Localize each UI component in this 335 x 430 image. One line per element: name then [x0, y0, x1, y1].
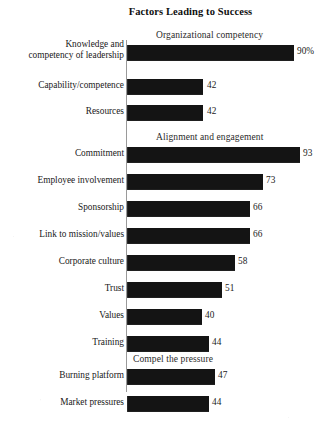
- bar-label: Values: [0, 310, 124, 321]
- bar-value: 47: [218, 370, 227, 380]
- section-header-organizational-competency: Organizational competency: [156, 30, 263, 40]
- bar-value: 58: [238, 256, 247, 266]
- bar-row: Link to mission/values 66: [0, 228, 335, 244]
- bar-value: 93: [303, 148, 312, 158]
- bar-row: Capability/competence 42: [0, 79, 335, 95]
- bar-row: Commitment 93: [0, 147, 335, 163]
- bar-fill: [127, 282, 222, 298]
- bar-row: Knowledge and competency of leadership 9…: [0, 45, 335, 61]
- bar-fill: [127, 45, 294, 61]
- bar-label: Capability/competence: [0, 80, 124, 91]
- bar-value: 73: [266, 175, 275, 185]
- bar-label: Trust: [0, 283, 124, 294]
- bar-label: Training: [0, 337, 124, 348]
- bar-track: [127, 105, 203, 121]
- bar-track: [127, 79, 203, 95]
- bar-row: Trust 51: [0, 282, 335, 298]
- bar-fill: [127, 255, 235, 271]
- bar-row: Employee involvement 73: [0, 174, 335, 190]
- bar-label: Employee involvement: [0, 175, 124, 186]
- bar-fill: [127, 105, 203, 121]
- bar-fill: [127, 228, 250, 244]
- chart-title: Factors Leading to Success: [0, 6, 335, 17]
- bar-label: Burning platform: [0, 370, 124, 381]
- section-header-compel-the-pressure: Compel the pressure: [133, 354, 213, 364]
- bar-track: [127, 396, 209, 412]
- bar-fill: [127, 309, 202, 325]
- bar-label: Knowledge and competency of leadership: [0, 39, 124, 61]
- bar-track: [127, 228, 250, 244]
- bar-fill: [127, 396, 209, 412]
- bar-track: [127, 369, 215, 385]
- bar-label-line1: Knowledge and: [65, 39, 124, 49]
- bar-row: Market pressures 44: [0, 396, 335, 412]
- bar-track: [127, 147, 300, 163]
- bar-label: Corporate culture: [0, 256, 124, 267]
- bar-track: [127, 201, 250, 217]
- bar-track: [127, 45, 294, 61]
- bar-track: [127, 336, 209, 352]
- bar-row: Corporate culture 58: [0, 255, 335, 271]
- bar-value: 42: [207, 106, 216, 116]
- bar-fill: [127, 147, 300, 163]
- bar-value: 66: [253, 202, 262, 212]
- bar-value: 90%: [297, 46, 314, 56]
- bar-fill: [127, 369, 215, 385]
- bar-fill: [127, 79, 203, 95]
- bar-track: [127, 174, 263, 190]
- bar-chart: Factors Leading to Success Organizationa…: [0, 0, 335, 430]
- bar-row: Sponsorship 66: [0, 201, 335, 217]
- bar-value: 44: [212, 397, 221, 407]
- bar-track: [127, 309, 202, 325]
- bar-value: 44: [212, 337, 221, 347]
- bar-fill: [127, 201, 250, 217]
- bar-label: Market pressures: [0, 397, 124, 408]
- bar-track: [127, 255, 235, 271]
- bar-track: [127, 282, 222, 298]
- section-header-alignment-and-engagement: Alignment and engagement: [156, 132, 263, 142]
- bar-label-line2: competency of leadership: [28, 50, 124, 60]
- bar-value: 40: [205, 310, 214, 320]
- bar-label: Resources: [0, 106, 124, 117]
- bar-row: Values 40: [0, 309, 335, 325]
- bar-row: Burning platform 47: [0, 369, 335, 385]
- bar-fill: [127, 174, 263, 190]
- bar-row: Training 44: [0, 336, 335, 352]
- bar-fill: [127, 336, 209, 352]
- bar-label: Link to mission/values: [0, 229, 124, 240]
- bar-label: Commitment: [0, 148, 124, 159]
- bar-value: 66: [253, 229, 262, 239]
- bar-row: Resources 42: [0, 105, 335, 121]
- bar-value: 42: [207, 80, 216, 90]
- bar-value: 51: [225, 283, 234, 293]
- bar-label: Sponsorship: [0, 202, 124, 213]
